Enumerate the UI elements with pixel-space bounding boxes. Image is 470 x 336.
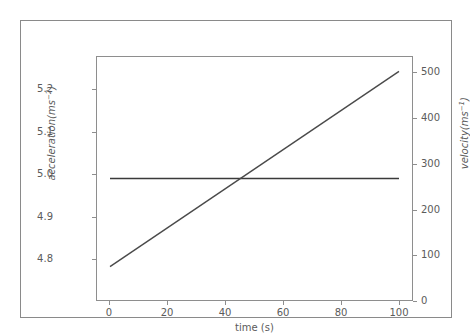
x-axis-title: time (s)	[96, 322, 413, 333]
x-tick-mark	[225, 301, 226, 305]
y-left-tick-mark	[92, 217, 96, 218]
y-right-axis-title: velocity(ms−1)	[458, 58, 470, 208]
x-tick-mark	[399, 301, 400, 305]
y-left-tick-mark	[92, 89, 96, 90]
x-tick-label: 60	[277, 308, 290, 318]
y-left-tick-label: 4.9	[37, 212, 53, 222]
y-left-tick-label: 4.8	[37, 254, 53, 264]
y-right-tick-label: 300	[421, 159, 440, 169]
y-right-tick-label: 100	[421, 250, 440, 260]
y-right-tick-label: 0	[421, 296, 427, 306]
x-tick-mark	[109, 301, 110, 305]
y-left-axis-title: acceleration(ms−2)	[45, 58, 57, 208]
figure-frame: 5.2 5.1 5.0 4.9 4.8 acceleration(ms−2) 5…	[20, 20, 452, 318]
x-tick-label: 40	[219, 308, 232, 318]
y-right-tick-label: 200	[421, 205, 440, 215]
x-tick-label: 80	[335, 308, 348, 318]
x-tick-label: 0	[106, 308, 112, 318]
plot-area	[96, 56, 413, 301]
y-left-tick-mark	[92, 259, 96, 260]
y-right-tick-label: 400	[421, 113, 440, 123]
y-right-tick-mark	[413, 301, 417, 302]
y-right-tick-label: 500	[421, 67, 440, 77]
clipped-header-text	[0, 0, 468, 10]
x-tick-label: 100	[389, 308, 408, 318]
x-tick-label: 20	[161, 308, 174, 318]
y-left-tick-mark	[92, 174, 96, 175]
y-right-tick-mark	[413, 255, 417, 256]
x-tick-mark	[341, 301, 342, 305]
y-right-tick-mark	[413, 210, 417, 211]
chart-series-layer	[97, 57, 412, 300]
x-tick-mark	[167, 301, 168, 305]
y-right-tick-mark	[413, 164, 417, 165]
y-left-tick-mark	[92, 132, 96, 133]
y-right-tick-mark	[413, 72, 417, 73]
x-tick-mark	[283, 301, 284, 305]
series-line-velocity	[110, 71, 399, 266]
y-right-tick-mark	[413, 118, 417, 119]
